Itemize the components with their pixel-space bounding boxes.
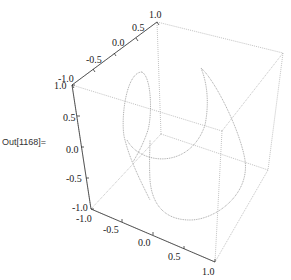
3d-plot[interactable]: -1.0 -0.5 0.0 0.5 1.0 1.0 0.5 0.0 -0.5 -… bbox=[0, 0, 291, 280]
svg-text:1.0: 1.0 bbox=[54, 80, 67, 91]
svg-text:0.0: 0.0 bbox=[112, 37, 125, 48]
space-curve bbox=[123, 68, 245, 220]
svg-text:0.5: 0.5 bbox=[63, 112, 76, 123]
svg-text:-0.5: -0.5 bbox=[66, 173, 82, 184]
svg-text:1.0: 1.0 bbox=[202, 266, 215, 277]
axis-bottom bbox=[91, 209, 215, 262]
svg-text:-0.5: -0.5 bbox=[86, 54, 102, 65]
svg-text:0.5: 0.5 bbox=[132, 22, 145, 33]
svg-text:1.0: 1.0 bbox=[149, 9, 162, 20]
svg-text:-1.0: -1.0 bbox=[72, 202, 88, 213]
bottom-axis-labels: -1.0 -0.5 0.0 0.5 1.0 bbox=[76, 213, 215, 277]
left-axis-labels: 1.0 0.5 0.0 -0.5 -1.0 bbox=[54, 80, 88, 213]
svg-text:0.0: 0.0 bbox=[66, 144, 79, 155]
svg-text:0.0: 0.0 bbox=[138, 237, 151, 248]
top-axis-labels: -1.0 -0.5 0.0 0.5 1.0 bbox=[58, 9, 162, 84]
svg-text:-0.5: -0.5 bbox=[103, 224, 119, 235]
svg-text:-1.0: -1.0 bbox=[76, 213, 92, 224]
svg-text:0.5: 0.5 bbox=[168, 251, 181, 262]
